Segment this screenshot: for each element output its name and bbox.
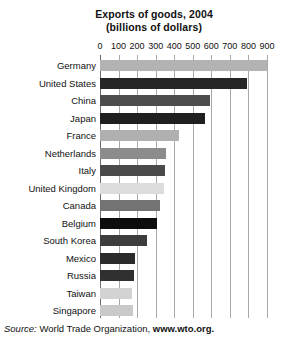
chart-title: Exports of goods, 2004 [0, 8, 308, 21]
bar-russia [100, 270, 134, 281]
category-label-taiwan: Taiwan [0, 288, 96, 299]
category-label-netherlands: Netherlands [0, 148, 96, 159]
bar-rows: GermanyUnited StatesChinaJapanFranceNeth… [0, 55, 308, 318]
bar-row: Belgium [0, 215, 308, 233]
bar-row: Japan [0, 110, 308, 128]
x-tick-label-200: 200 [130, 41, 145, 52]
chart-header: Exports of goods, 2004 (billions of doll… [0, 8, 308, 34]
chart-subtitle: (billions of dollars) [0, 21, 308, 34]
plot-area: GermanyUnited StatesChinaJapanFranceNeth… [0, 55, 308, 318]
category-label-singapore: Singapore [0, 305, 96, 316]
chart-page: Exports of goods, 2004 (billions of doll… [0, 0, 308, 344]
bar-netherlands [100, 148, 166, 159]
bar-row: South Korea [0, 232, 308, 250]
bar-singapore [100, 305, 133, 316]
category-label-united-kingdom: United Kingdom [0, 183, 96, 194]
source-organization: World Trade Organization, [39, 323, 150, 334]
x-tick-label-0: 0 [97, 41, 102, 52]
category-label-japan: Japan [0, 113, 96, 124]
bar-mexico [100, 253, 135, 264]
x-tick-label-700: 700 [222, 41, 237, 52]
category-label-china: China [0, 95, 96, 106]
bar-italy [100, 165, 165, 176]
bar-united-states [100, 78, 247, 89]
bar-row: Netherlands [0, 145, 308, 163]
bar-row: France [0, 127, 308, 145]
bar-row: Taiwan [0, 285, 308, 303]
bar-south-korea [100, 235, 147, 246]
x-tick-label-500: 500 [185, 41, 200, 52]
x-axis-tick-labels: 0100200300400500600700800900 [0, 41, 308, 55]
bar-row: Russia [0, 267, 308, 285]
source-note: Source: World Trade Organization, www.wt… [4, 323, 214, 335]
source-label: Source: [4, 323, 37, 334]
bar-row: China [0, 92, 308, 110]
x-tick-label-400: 400 [167, 41, 182, 52]
x-tick-label-900: 900 [259, 41, 274, 52]
x-tick-label-100: 100 [111, 41, 126, 52]
bar-row: Canada [0, 197, 308, 215]
x-tick-label-300: 300 [148, 41, 163, 52]
category-label-belgium: Belgium [0, 218, 96, 229]
bar-united-kingdom [100, 183, 164, 194]
bar-belgium [100, 218, 157, 229]
x-tick-label-800: 800 [241, 41, 256, 52]
category-label-italy: Italy [0, 165, 96, 176]
bar-japan [100, 113, 205, 124]
source-url: www.wto.org. [153, 323, 214, 334]
bar-china [100, 95, 210, 106]
bar-row: Germany [0, 57, 308, 75]
category-label-mexico: Mexico [0, 253, 96, 264]
bar-taiwan [100, 288, 132, 299]
category-label-south-korea: South Korea [0, 235, 96, 246]
x-tick-label-600: 600 [204, 41, 219, 52]
bar-row: Singapore [0, 302, 308, 320]
category-label-france: France [0, 130, 96, 141]
bar-row: Italy [0, 162, 308, 180]
category-label-united-states: United States [0, 78, 96, 89]
category-label-germany: Germany [0, 60, 96, 71]
bar-row: Mexico [0, 250, 308, 268]
category-label-canada: Canada [0, 200, 96, 211]
bar-france [100, 130, 179, 141]
bar-germany [100, 60, 267, 71]
bar-row: United States [0, 75, 308, 93]
category-label-russia: Russia [0, 270, 96, 281]
bar-row: United Kingdom [0, 180, 308, 198]
bar-canada [100, 200, 160, 211]
